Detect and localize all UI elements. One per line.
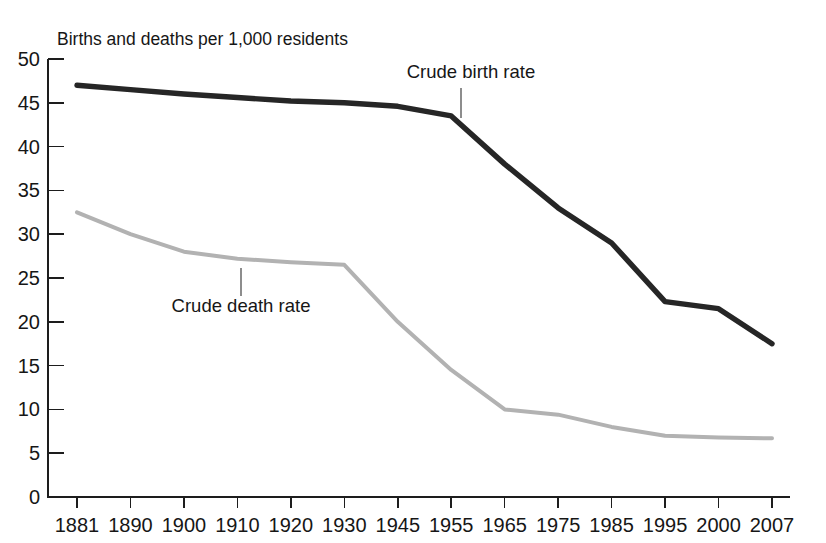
x-tick-label: 1881 [55,514,100,536]
x-axis-ticks: 1881189019001910192019301945195519651975… [55,497,795,536]
x-tick-label: 1985 [589,514,634,536]
x-tick-label: 1975 [536,514,581,536]
x-tick-label: 1995 [643,514,688,536]
y-tick-label: 30 [18,223,40,245]
chart-container: Births and deaths per 1,000 residents 05… [0,0,826,543]
x-tick-label: 1900 [162,514,207,536]
chart-axis-title: Births and deaths per 1,000 residents [57,29,348,49]
y-tick-label: 10 [18,398,40,420]
y-tick-label: 40 [18,136,40,158]
axis-lines [48,59,790,497]
x-tick-label: 1890 [108,514,153,536]
annotation-label-crude-birth-rate: Crude birth rate [407,61,536,82]
y-tick-label: 50 [18,48,40,70]
y-tick-label: 20 [18,311,40,333]
y-tick-label: 45 [18,92,40,114]
y-tick-label: 15 [18,355,40,377]
x-tick-label: 2007 [750,514,795,536]
annotation-label-crude-death-rate: Crude death rate [172,295,311,316]
y-tick-label: 5 [29,442,40,464]
x-tick-label: 1965 [482,514,527,536]
y-tick-label: 25 [18,267,40,289]
x-tick-label: 2000 [696,514,741,536]
x-tick-label: 1955 [429,514,474,536]
series-group [77,85,772,438]
line-chart: Births and deaths per 1,000 residents 05… [0,0,826,543]
y-axis-ticks: 05101520253035404550 [18,48,64,508]
y-tick-label: 35 [18,179,40,201]
x-tick-label: 1930 [322,514,367,536]
x-tick-label: 1945 [376,514,421,536]
x-tick-label: 1910 [215,514,260,536]
series-line-crude-death-rate [77,212,772,438]
y-tick-label: 0 [29,486,40,508]
x-tick-label: 1920 [269,514,314,536]
